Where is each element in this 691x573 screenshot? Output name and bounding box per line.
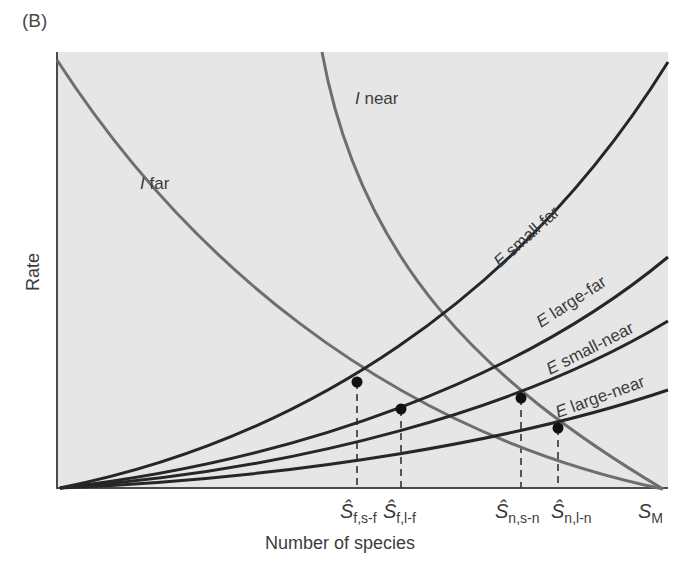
tick-s-f-l-f: Ŝf,l-f (383, 499, 416, 526)
point-n-s-n (516, 393, 527, 404)
point-f-l-f (396, 404, 407, 415)
label-i-near: I near (355, 89, 399, 108)
tick-s-f-s-f: Ŝf,s-f (340, 499, 377, 526)
tick-s-m: SM (638, 500, 663, 526)
island-biogeography-diagram: I far I near E small-far E large-far E s… (0, 0, 691, 573)
label-i-far: I far (140, 174, 170, 193)
point-f-s-f (352, 377, 363, 388)
x-axis-title: Number of species (265, 533, 415, 553)
point-n-l-n (553, 423, 564, 434)
tick-s-n-s-n: Ŝn,s-n (495, 499, 539, 526)
tick-s-n-l-n: Ŝn,l-n (551, 499, 592, 526)
y-axis-title: Rate (23, 253, 43, 291)
